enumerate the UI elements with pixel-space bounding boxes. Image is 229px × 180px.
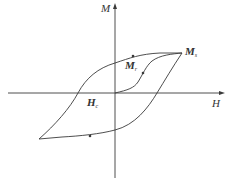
- coercivity-label: Hc: [87, 97, 98, 109]
- coercivity-label-sub: c: [96, 103, 99, 109]
- m-axis-arrow-icon: [113, 3, 117, 9]
- saturation-label: Ms: [185, 46, 197, 58]
- saturation-label-sub: s: [195, 52, 197, 58]
- saturation-label-main: M: [185, 45, 195, 57]
- upper-branch-curve: [39, 53, 182, 139]
- hysteresis-diagram: M H Ms Mr Hc: [0, 0, 229, 180]
- coercivity-label-main: H: [87, 96, 96, 108]
- h-axis-arrow-icon: [219, 91, 225, 95]
- remanence-label-main: M: [125, 59, 135, 71]
- initial-curve-dot: [142, 72, 145, 75]
- remanence-label: Mr: [125, 60, 137, 72]
- lower-branch-dot: [89, 135, 92, 138]
- remanence-label-sub: r: [135, 66, 137, 72]
- h-axis-label: H: [212, 98, 220, 109]
- lower-branch-curve: [39, 53, 182, 139]
- hysteresis-svg: [0, 0, 229, 180]
- upper-branch-dot: [132, 55, 135, 58]
- m-axis-label: M: [101, 3, 110, 14]
